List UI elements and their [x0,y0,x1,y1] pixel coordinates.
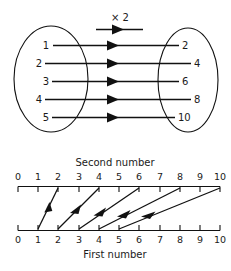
right-value-10: 10 [178,112,191,123]
left-value-5: 5 [43,112,49,123]
double-number-line: Second number 0 1 2 3 4 5 6 7 8 9 10 [15,157,226,260]
top-tick-label: 3 [76,171,82,182]
mapping-row: 5 10 [43,112,191,123]
double-number-line-figure: × 2 1 2 2 4 [0,0,231,271]
right-value-8: 8 [194,94,200,105]
mapping-arrow [58,188,99,229]
bottom-axis-ticks [18,225,220,231]
mapping-arrow [119,188,220,229]
bottom-tick-label: 5 [116,234,122,245]
bottom-tick-label: 6 [136,234,142,245]
mapping-diagram: × 2 1 2 2 4 [14,12,218,132]
mapping-row: 2 4 [36,58,201,69]
bottom-tick-label: 3 [76,234,82,245]
top-axis-ticks [18,187,220,193]
mapping-arrow [79,188,139,229]
left-value-2: 2 [36,58,42,69]
bottom-tick-label: 9 [197,234,203,245]
top-tick-label: 8 [177,171,183,182]
mapping-arrow [38,188,58,229]
rule-arrow-icon [96,25,143,35]
right-value-4: 4 [194,58,200,69]
top-tick-label: 0 [15,171,21,182]
bottom-tick-label: 0 [15,234,21,245]
bottom-tick-label: 8 [177,234,183,245]
mapping-row: 4 8 [36,94,201,105]
figure-canvas: × 2 1 2 2 4 [0,0,231,271]
mapping-row: 1 2 [43,40,189,51]
left-value-4: 4 [36,94,42,105]
bottom-axis-title: First number [83,249,147,260]
bottom-tick-label: 7 [157,234,163,245]
left-value-1: 1 [43,40,49,51]
top-tick-label: 2 [55,171,61,182]
bottom-tick-label: 2 [55,234,61,245]
top-tick-label: 7 [157,171,163,182]
top-tick-label: 6 [136,171,142,182]
left-value-3: 3 [43,76,49,87]
mapping-row: 3 6 [43,76,189,87]
bottom-tick-label: 1 [35,234,41,245]
rule-label: × 2 [111,12,129,23]
bottom-tick-label: 10 [214,234,226,245]
right-value-6: 6 [182,76,188,87]
top-tick-label: 4 [96,171,102,182]
top-tick-label: 5 [116,171,122,182]
top-tick-label: 9 [197,171,203,182]
top-tick-label: 1 [35,171,41,182]
top-tick-label: 10 [214,171,226,182]
left-set-ellipse [14,26,88,132]
top-axis-title: Second number [75,157,155,168]
right-value-2: 2 [182,40,188,51]
bottom-tick-label: 4 [96,234,102,245]
